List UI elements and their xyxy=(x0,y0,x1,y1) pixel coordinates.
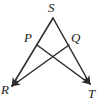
vertex-label-R: R xyxy=(1,83,9,96)
segment-S-T xyxy=(53,18,90,84)
segment-P-T xyxy=(37,45,90,84)
segment-Q-R xyxy=(12,45,69,86)
geometry-figure: S P Q R T xyxy=(0,0,108,106)
vertex-label-S: S xyxy=(48,1,55,14)
vertex-label-T: T xyxy=(88,87,95,100)
vertex-label-P: P xyxy=(24,31,32,44)
vertex-label-Q: Q xyxy=(71,31,80,44)
